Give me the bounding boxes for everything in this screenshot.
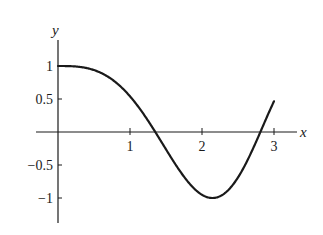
y-tick-label: 1 [46, 59, 53, 74]
x-tick-label: 3 [271, 139, 278, 154]
chart: 12310.5−0.5−1 x y [0, 0, 323, 235]
y-tick-label: −0.5 [28, 158, 53, 173]
y-tick-label: 0.5 [36, 92, 54, 107]
x-tick-label: 2 [199, 139, 206, 154]
y-tick-label: −1 [38, 191, 53, 206]
y-axis-label: y [50, 22, 59, 38]
x-tick-label: 1 [127, 139, 134, 154]
x-axis-label: x [299, 124, 307, 140]
